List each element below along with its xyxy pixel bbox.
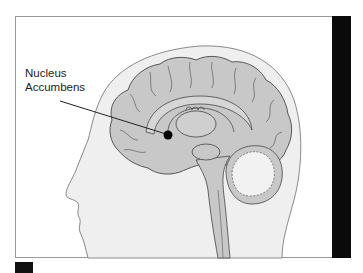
pons [192,144,220,160]
corner-block [15,262,33,273]
label-line-1: Nucleus [25,66,67,80]
brain-diagram [0,0,363,273]
side-bar [332,16,351,258]
cerebellum-arbor [232,152,274,196]
label-line-2: Accumbens [25,80,85,94]
thalamus [176,111,216,137]
nucleus-accumbens-marker [164,131,173,140]
